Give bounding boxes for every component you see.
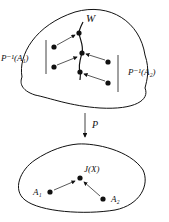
arrow <box>57 57 77 65</box>
projection-label: P <box>91 119 98 130</box>
fiber-point <box>79 50 84 55</box>
point-a2 <box>100 196 105 201</box>
point-jx-label: J(X) <box>84 164 100 174</box>
preimage-a2-point <box>105 59 110 64</box>
arrow <box>86 54 105 60</box>
fiber-point <box>76 30 81 35</box>
arrow <box>84 74 105 81</box>
preimage-a1-point <box>51 64 56 69</box>
left-set-label: P⁻¹(A₁) <box>0 53 29 63</box>
fibration-diagram: W P⁻¹(A₁) P⁻¹(A₂) P J(X) A₁ A₂ <box>0 0 169 222</box>
point-a1-label: A₁ <box>32 187 42 197</box>
fiber-point <box>77 69 82 74</box>
arrow <box>84 182 100 196</box>
preimage-a2-point <box>105 80 110 85</box>
arrow <box>54 181 75 190</box>
preimage-a1-point <box>51 44 56 49</box>
arrow <box>57 35 75 45</box>
right-set-label: P⁻¹(A₂) <box>127 67 156 77</box>
curve-w-label: W <box>86 12 96 24</box>
point-a2-label: A₂ <box>110 194 120 204</box>
point-jx <box>77 175 82 180</box>
point-a1 <box>47 189 52 194</box>
top-region-outline-lower <box>21 77 146 108</box>
